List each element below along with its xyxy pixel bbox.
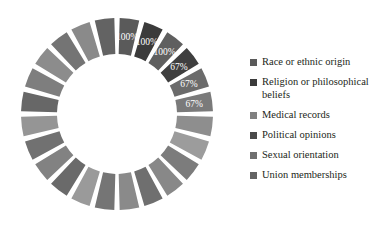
legend-item[interactable]: Political opinions xyxy=(250,129,388,142)
legend-item-label: Union memberships xyxy=(262,169,347,182)
legend-swatch-icon xyxy=(250,172,257,179)
legend-item[interactable]: Religion or philosophical beliefs xyxy=(250,76,388,101)
legend-item[interactable]: Union memberships xyxy=(250,169,388,182)
slice-value-label: 100% xyxy=(153,47,175,57)
legend-item-label: Medical records xyxy=(262,109,330,122)
slice-value-label: 100% xyxy=(136,37,158,47)
legend-swatch-icon xyxy=(250,59,257,66)
legend-swatch-icon xyxy=(250,79,257,86)
legend-item-label: Religion or philosophical beliefs xyxy=(262,76,388,101)
legend-item-label: Race or ethnic origin xyxy=(262,56,350,69)
legend-item[interactable]: Sexual orientation xyxy=(250,149,388,162)
legend-swatch-icon xyxy=(250,132,257,139)
legend-swatch-icon xyxy=(250,152,257,159)
donut-chart: 100%100%100%67%67%67% Race or ethnic ori… xyxy=(0,0,390,231)
legend-swatch-icon xyxy=(250,112,257,119)
legend-item[interactable]: Race or ethnic origin xyxy=(250,56,388,69)
slice-value-label: 67% xyxy=(170,62,188,72)
slice-value-label: 67% xyxy=(186,99,204,109)
legend-item[interactable]: Medical records xyxy=(250,109,388,122)
chart-legend: Race or ethnic originReligion or philoso… xyxy=(250,56,388,189)
legend-item-label: Political opinions xyxy=(262,129,336,142)
slice-value-label: 67% xyxy=(180,79,198,89)
legend-item-label: Sexual orientation xyxy=(262,149,339,162)
